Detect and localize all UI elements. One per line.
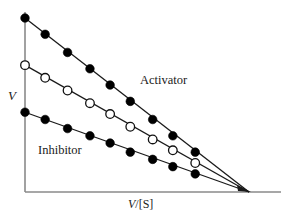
- convergence-marker: [237, 185, 251, 192]
- series-line-activator: [25, 18, 249, 192]
- data-point-control-0: [21, 61, 30, 70]
- series-lines-group: [25, 18, 249, 192]
- data-point-control-3: [86, 99, 95, 108]
- data-point-control-4: [106, 110, 115, 119]
- data-point-inhibitor-4: [106, 139, 115, 148]
- data-point-inhibitor-0: [21, 108, 30, 117]
- data-point-activator-2: [63, 48, 72, 57]
- series-label-activator: Activator: [140, 73, 187, 88]
- x-axis-label: V/[S]: [128, 197, 153, 212]
- data-point-activator-7: [169, 132, 178, 141]
- y-axis-label: V: [8, 88, 16, 104]
- data-point-control-6: [148, 135, 157, 144]
- series-markers-group: [21, 14, 251, 192]
- data-point-activator-5: [126, 97, 135, 106]
- data-point-inhibitor-8: [191, 170, 200, 179]
- data-point-activator-4: [106, 81, 115, 90]
- data-point-control-5: [126, 122, 135, 131]
- x-axis-label-plain: /[S]: [135, 197, 153, 211]
- axes-group: [25, 12, 281, 192]
- data-point-control-2: [63, 86, 72, 95]
- eadie-hofstee-chart: V V/[S] Activator Inhibitor: [0, 0, 290, 219]
- data-point-activator-0: [21, 14, 30, 23]
- data-point-activator-3: [86, 64, 95, 73]
- data-point-inhibitor-1: [41, 115, 50, 124]
- data-point-activator-8: [191, 148, 200, 157]
- data-point-inhibitor-3: [86, 132, 95, 141]
- data-point-inhibitor-6: [148, 155, 157, 164]
- data-point-inhibitor-5: [126, 148, 135, 157]
- data-point-inhibitor-2: [63, 124, 72, 133]
- data-point-activator-1: [41, 30, 50, 39]
- series-line-control: [25, 65, 249, 192]
- data-point-control-7: [169, 146, 178, 155]
- series-label-inhibitor: Inhibitor: [38, 143, 82, 158]
- data-point-control-1: [41, 74, 50, 83]
- data-point-activator-6: [148, 115, 157, 124]
- data-point-inhibitor-7: [169, 162, 178, 171]
- data-point-control-8: [191, 159, 200, 168]
- plot-area: [0, 0, 290, 219]
